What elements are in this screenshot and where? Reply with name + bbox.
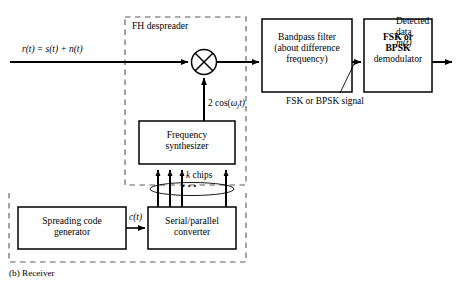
figure-caption: (b) Receiver: [9, 268, 55, 278]
serial-parallel-converter-label: Serial/parallel converter: [148, 216, 236, 238]
code-signal-label: c(t): [129, 212, 142, 223]
spreading-code-generator-label: Spreading code generator: [18, 216, 126, 238]
k-chips-label: k chips: [186, 170, 212, 181]
frequency-synthesizer-label: Frequency synthesizer: [139, 130, 235, 152]
detected-data-label: Detected data ~m (t): [396, 16, 429, 49]
input-signal-label: r(t) = s(t) + n(t): [22, 44, 83, 55]
mixer-multiplier: [192, 50, 217, 75]
local-oscillator-label: 2 cos(ωjt): [208, 98, 245, 109]
fh-despreader-group-label: FH despreader: [132, 21, 188, 32]
fsk-bpsk-signal-label: FSK or BPSK signal: [286, 96, 364, 107]
tilde-accent: ~: [397, 33, 402, 43]
figure-canvas: r(t) = s(t) + n(t) FH despreader 2 cos(ω…: [0, 0, 460, 285]
bandpass-filter-label: Bandpass filter (about difference freque…: [262, 32, 352, 65]
chip-ellipsis-dots: • • •: [182, 183, 197, 192]
